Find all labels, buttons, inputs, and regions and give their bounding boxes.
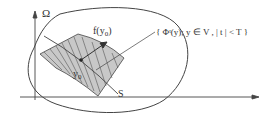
flow-box-diagram: Ω f(y0) y0 S { Φᵗ(y); y ∈ V , | t | < T …: [0, 0, 268, 121]
omega-label: Ω: [42, 7, 50, 19]
flow-set-label: { Φᵗ(y); y ∈ V , | t | < T }: [156, 27, 248, 37]
f-y0-label: f(y0): [93, 25, 112, 38]
flow-box-region: [40, 34, 124, 96]
s-label: S: [118, 88, 124, 99]
